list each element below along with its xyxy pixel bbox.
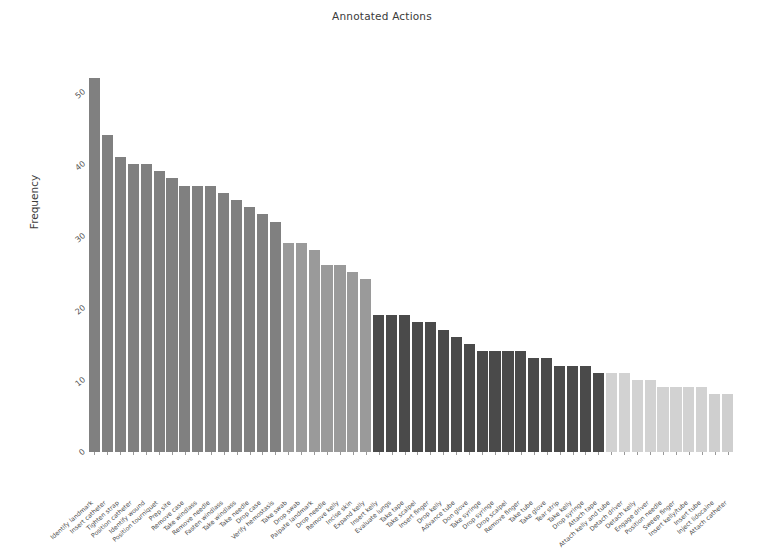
- bar: [670, 387, 681, 452]
- bar: [645, 380, 656, 452]
- y-tick-label: 50: [54, 86, 84, 95]
- bar: [270, 222, 281, 452]
- bar: [89, 78, 100, 452]
- x-tick-mark: [262, 452, 263, 455]
- bar: [464, 344, 475, 452]
- x-axis-ticks: Identify landmarkInsert catheterTighten …: [88, 452, 734, 533]
- bar: [399, 315, 410, 452]
- bar: [502, 351, 513, 452]
- x-tick-mark: [637, 452, 638, 455]
- x-tick-mark: [107, 452, 108, 455]
- x-tick-mark: [560, 452, 561, 455]
- x-tick-mark: [379, 452, 380, 455]
- x-tick-mark: [624, 452, 625, 455]
- x-tick-mark: [482, 452, 483, 455]
- x-tick-mark: [392, 452, 393, 455]
- x-tick-mark: [275, 452, 276, 455]
- x-tick-mark: [327, 452, 328, 455]
- x-tick-mark: [521, 452, 522, 455]
- y-axis-ticks: 01020304050: [40, 0, 84, 533]
- x-tick-mark: [728, 452, 729, 455]
- x-tick-mark: [366, 452, 367, 455]
- x-tick-mark: [650, 452, 651, 455]
- bar: [102, 135, 113, 452]
- bar: [296, 243, 307, 452]
- bar: [128, 164, 139, 452]
- bar: [386, 315, 397, 452]
- x-tick-mark: [456, 452, 457, 455]
- bar: [115, 157, 126, 452]
- bar: [438, 330, 449, 452]
- x-tick-mark: [250, 452, 251, 455]
- bar: [360, 279, 371, 452]
- plot-area: [88, 56, 734, 452]
- x-tick-mark: [495, 452, 496, 455]
- bar: [451, 337, 462, 452]
- x-tick-mark: [573, 452, 574, 455]
- bar: [218, 193, 229, 452]
- y-tick-label: 0: [54, 446, 84, 455]
- bar: [412, 322, 423, 452]
- x-tick-mark: [443, 452, 444, 455]
- bar: [205, 186, 216, 452]
- x-tick-mark: [417, 452, 418, 455]
- bar: [554, 366, 565, 452]
- x-tick-mark: [598, 452, 599, 455]
- x-tick-mark: [702, 452, 703, 455]
- bar: [283, 243, 294, 452]
- bar: [425, 322, 436, 452]
- bar: [231, 200, 242, 452]
- y-tick-label: 10: [54, 374, 84, 383]
- bar: [541, 358, 552, 452]
- x-tick-mark: [198, 452, 199, 455]
- bar: [696, 387, 707, 452]
- bar: [321, 265, 332, 452]
- bar: [179, 186, 190, 452]
- y-tick-label: 40: [54, 158, 84, 167]
- bar: [528, 358, 539, 452]
- x-tick-mark: [94, 452, 95, 455]
- chart-title: Annotated Actions: [0, 10, 764, 22]
- bar: [477, 351, 488, 452]
- x-tick-mark: [314, 452, 315, 455]
- x-tick-mark: [211, 452, 212, 455]
- bar: [657, 387, 668, 452]
- bar: [489, 351, 500, 452]
- x-tick-mark: [353, 452, 354, 455]
- x-tick-mark: [547, 452, 548, 455]
- bar: [593, 373, 604, 452]
- x-tick-mark: [508, 452, 509, 455]
- bar: [722, 394, 733, 452]
- x-tick-mark: [469, 452, 470, 455]
- x-tick-mark: [715, 452, 716, 455]
- x-tick-mark: [430, 452, 431, 455]
- bar: [347, 272, 358, 452]
- bar: [309, 250, 320, 452]
- bar: [683, 387, 694, 452]
- x-tick-mark: [120, 452, 121, 455]
- x-tick-mark: [159, 452, 160, 455]
- y-tick-label: 30: [54, 230, 84, 239]
- bar: [334, 265, 345, 452]
- x-tick-mark: [237, 452, 238, 455]
- bar: [515, 351, 526, 452]
- y-tick-label: 20: [54, 302, 84, 311]
- x-tick-mark: [585, 452, 586, 455]
- bar: [606, 373, 617, 452]
- bar: [580, 366, 591, 452]
- bar: [192, 186, 203, 452]
- x-tick-mark: [689, 452, 690, 455]
- x-tick-mark: [611, 452, 612, 455]
- bar: [141, 164, 152, 452]
- bar: [567, 366, 578, 452]
- x-tick-mark: [340, 452, 341, 455]
- x-tick-mark: [133, 452, 134, 455]
- x-tick-mark: [172, 452, 173, 455]
- x-tick-mark: [534, 452, 535, 455]
- x-tick-mark: [405, 452, 406, 455]
- bar: [373, 315, 384, 452]
- bar: [709, 394, 720, 452]
- x-tick-mark: [676, 452, 677, 455]
- bar: [244, 207, 255, 452]
